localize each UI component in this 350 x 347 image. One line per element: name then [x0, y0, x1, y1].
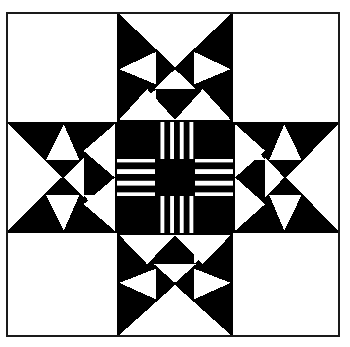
patch-bottom-center-vertical-stripes: [155, 196, 195, 233]
patch-middle-right-horizontal-stripes: [195, 159, 233, 196]
cell-center: [117, 122, 233, 233]
cell-middle-right: [233, 122, 340, 233]
cell-bottom-left: [6, 233, 117, 337]
cell-bottom-center: [117, 233, 233, 337]
patch-middle-left-horizontal-stripes: [117, 159, 155, 196]
patch-top-center-vertical-stripes: [155, 122, 195, 159]
patch-middle-center-solid: [155, 159, 195, 196]
cell-top-center: [117, 12, 233, 122]
cell-middle-left: [6, 122, 117, 233]
cell-bottom-right: [233, 233, 340, 337]
cell-top-left: [6, 12, 117, 122]
cell-top-right: [233, 12, 340, 122]
quilt-artwork-stage: Quilt Block Pattern Eight-pointed star w…: [0, 0, 350, 347]
quilt-block-illustration: [0, 0, 350, 347]
